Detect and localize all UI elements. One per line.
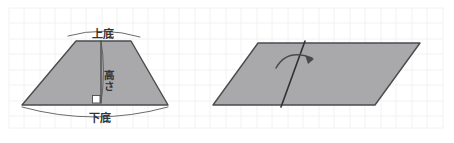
height-label-group: 高さ bbox=[102, 69, 114, 92]
bottom-base-label: 下底 bbox=[89, 111, 111, 125]
height-label-char-1: 高さ bbox=[102, 69, 114, 92]
right-angle-marker bbox=[93, 96, 101, 104]
geometry-figure-svg: 上底 高さ 下底 bbox=[0, 0, 454, 143]
top-base-label: 上底 bbox=[92, 27, 114, 41]
diagram-canvas: 上底 高さ 下底 bbox=[0, 0, 454, 143]
